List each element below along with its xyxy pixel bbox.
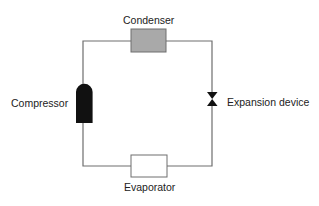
- pipe-condenser-to-expansion: [166, 41, 212, 92]
- condenser-label: Condenser: [123, 14, 174, 26]
- pipe-evaporator-to-compressor: [83, 123, 131, 166]
- evaporator-block: [131, 155, 167, 177]
- pipe-loop: [83, 41, 212, 166]
- pipe-expansion-to-evaporator: [167, 106, 212, 166]
- evaporator-label: Evaporator: [124, 181, 175, 193]
- compressor-label: Compressor: [11, 97, 68, 109]
- expansion-device-label: Expansion device: [227, 96, 309, 108]
- compressor-shape: [76, 84, 93, 123]
- expansion-valve-icon: [207, 92, 218, 106]
- pipe-condenser-to-compressor: [83, 41, 131, 86]
- condenser-block: [131, 29, 166, 52]
